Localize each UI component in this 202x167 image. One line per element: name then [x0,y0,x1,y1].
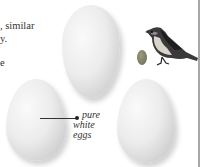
body-text-line-2: y. [0,34,7,45]
bird-icon [142,22,200,67]
annotation-leader-line [40,118,76,119]
egg-illustration-top [62,5,120,98]
body-text-line-3: e [0,58,5,69]
annotation-label: pure white eggs [73,110,103,140]
page-edge-divider [198,0,200,167]
body-text-line-1: , similar [0,21,34,32]
egg-illustration-right [117,79,175,163]
egg-illustration-left [6,79,66,161]
annotation-line-3: eggs [73,130,103,140]
